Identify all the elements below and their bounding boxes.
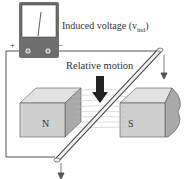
voltmeter (19, 2, 59, 58)
induced-voltage-label: Induced voltage (vind) (62, 20, 149, 33)
relative-motion-label: Relative motion (66, 60, 133, 71)
minus-terminal-label: − (58, 40, 63, 50)
relative-motion-arrow-icon (92, 76, 108, 103)
north-pole-label: N (42, 118, 49, 129)
south-pole-label: S (128, 118, 134, 129)
north-magnet (20, 88, 81, 137)
plus-terminal-label: + (10, 40, 15, 50)
induction-diagram: Induced voltage (vind) Relative motion N… (0, 0, 185, 179)
south-magnet (120, 88, 180, 137)
